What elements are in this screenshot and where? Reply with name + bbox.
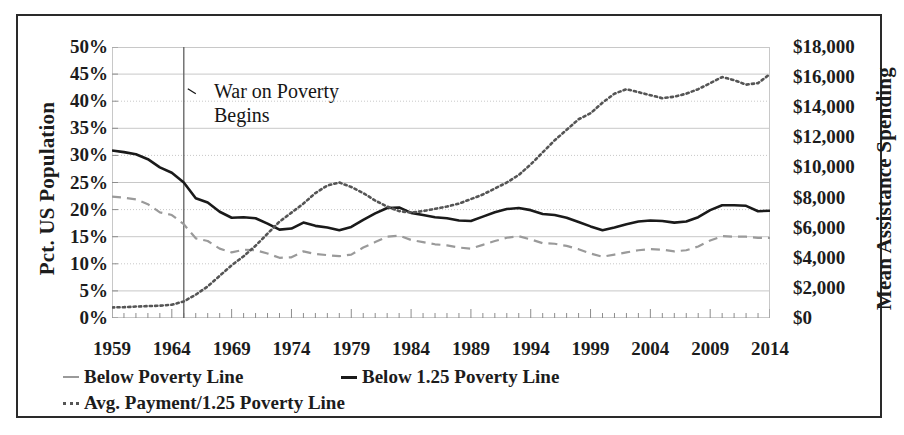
x-tick-label: 1959 — [82, 338, 142, 360]
x-axis-tick-labels: 1959196419691974197919841989199419992004… — [18, 338, 884, 364]
x-tick-label: 1984 — [381, 338, 441, 360]
y-tick-label-left: 5% — [80, 283, 109, 299]
plot-area — [112, 47, 770, 318]
y-tick-label-right: $6,000 — [793, 220, 845, 236]
series-line-2 — [112, 74, 770, 307]
y-tick-label-left: 30% — [70, 147, 108, 163]
x-tick-label: 1964 — [142, 338, 202, 360]
annotation-leader — [188, 89, 196, 94]
legend-label: Below 1.25 Poverty Line — [362, 366, 559, 388]
legend-label: Avg. Payment/1.25 Poverty Line — [84, 392, 345, 414]
y-tick-label-right: $16,000 — [793, 69, 855, 85]
y-tick-label-left: 45% — [70, 66, 108, 82]
y-tick-label-left: 20% — [70, 202, 108, 218]
legend-swatch-dashed-icon — [62, 370, 80, 384]
legend-swatch-dotted-icon — [62, 396, 80, 410]
war-on-poverty-annotation: War on Poverty Begins — [214, 79, 339, 128]
y-tick-label-left: 50% — [70, 39, 108, 55]
figure-root: Pct. US Population Mean Assistance Spend… — [0, 0, 904, 435]
y-tick-label-right: $14,000 — [793, 99, 855, 115]
y-tick-label-left: 15% — [70, 229, 108, 245]
x-tick-label: 1999 — [561, 338, 621, 360]
legend-label: Below Poverty Line — [84, 366, 243, 388]
y-tick-label-left: 40% — [70, 93, 108, 109]
y-tick-label-left: 25% — [70, 175, 108, 191]
y-tick-label-left: 0% — [80, 310, 109, 326]
legend-swatch-solid-icon — [340, 370, 358, 384]
x-tick-label: 1994 — [501, 338, 561, 360]
x-tick-label: 2004 — [620, 338, 680, 360]
x-tick-label: 1969 — [202, 338, 262, 360]
x-tick-label: 1979 — [321, 338, 381, 360]
x-tick-label: 1974 — [261, 338, 321, 360]
annotation-line-2: Begins — [214, 103, 339, 127]
y-axis-title-right: Mean Assistance Spending — [872, 64, 897, 314]
y-tick-label-left: 35% — [70, 120, 108, 136]
y-tick-label-right: $12,000 — [793, 129, 855, 145]
y-axis-title-left: Pct. US Population — [35, 64, 60, 314]
chart-svg — [112, 47, 770, 318]
y-tick-label-right: $10,000 — [793, 159, 855, 175]
x-tick-label: 1989 — [441, 338, 501, 360]
y-tick-label-right: $0 — [793, 310, 812, 326]
chart-legend: Below Poverty LineBelow 1.25 Poverty Lin… — [18, 366, 884, 418]
annotation-line-1: War on Poverty — [214, 79, 339, 103]
x-tick-label: 2014 — [740, 338, 800, 360]
y-tick-label-right: $2,000 — [793, 280, 845, 296]
series-line-1 — [112, 151, 770, 231]
y-tick-label-right: $8,000 — [793, 190, 845, 206]
legend-item-1[interactable]: Below 1.25 Poverty Line — [340, 366, 559, 388]
y-tick-label-right: $18,000 — [793, 39, 855, 55]
y-tick-label-right: $4,000 — [793, 250, 845, 266]
figure-frame: Pct. US Population Mean Assistance Spend… — [16, 14, 882, 418]
x-tick-label: 2009 — [680, 338, 740, 360]
legend-item-0[interactable]: Below Poverty Line — [62, 366, 243, 388]
legend-item-2[interactable]: Avg. Payment/1.25 Poverty Line — [62, 392, 345, 414]
y-tick-label-left: 10% — [70, 256, 108, 272]
